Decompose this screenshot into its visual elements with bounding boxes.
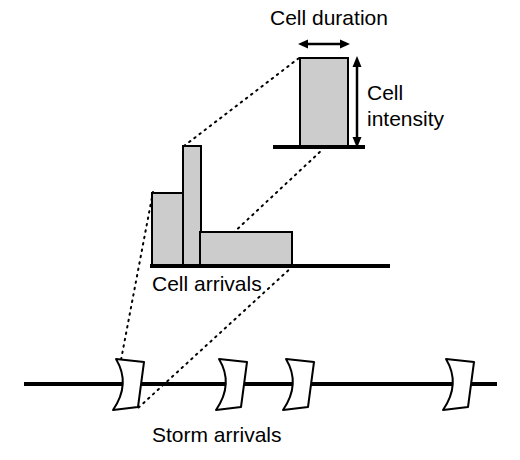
cell-bar-1 (152, 193, 183, 265)
storm-cell-diagram: Cell duration Cell intensity Cell arriva… (0, 0, 520, 460)
label-cell-intensity-line1: Cell (367, 81, 403, 104)
connector-cell1-top-to-storm1-top (121, 192, 153, 360)
cell-intensity-arrow (353, 56, 362, 148)
cell-duration-arrow (298, 40, 350, 49)
cell-bar-3 (200, 232, 292, 265)
connector-cell2-top-to-inset-top (184, 58, 299, 146)
label-cell-arrivals: Cell arrivals (152, 272, 262, 295)
cell-bar-2 (183, 146, 201, 265)
inset-magnified-cell: Cell duration Cell intensity (270, 6, 445, 148)
inset-cell-bar (300, 58, 348, 147)
label-cell-intensity-line2: intensity (367, 107, 445, 130)
diagram-canvas: Cell duration Cell intensity Cell arriva… (0, 0, 520, 460)
label-storm-arrivals: Storm arrivals (152, 423, 282, 446)
label-cell-duration: Cell duration (270, 6, 388, 29)
cell-arrivals-group: Cell arrivals (150, 146, 390, 295)
storm-arrivals-group: Storm arrivals (24, 359, 497, 446)
